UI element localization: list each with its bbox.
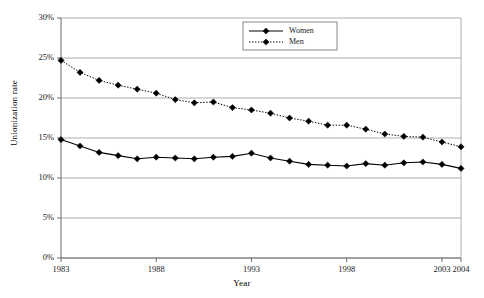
data-point-men — [439, 139, 445, 145]
series-line-men — [61, 60, 461, 146]
data-point-women — [77, 143, 83, 149]
y-tick-label: 25% — [26, 52, 54, 62]
unionization-rate-line-chart: Unionization rate Year 0%5%10%15%20%25%3… — [0, 0, 484, 298]
data-point-men — [210, 99, 216, 105]
data-point-men — [420, 134, 426, 140]
data-point-women — [96, 149, 102, 155]
data-point-women — [458, 165, 464, 171]
data-point-men — [77, 69, 83, 75]
data-point-men — [229, 105, 235, 111]
data-series-layer — [58, 57, 464, 171]
x-tick-label: 1993 — [231, 264, 271, 274]
data-point-men — [344, 122, 350, 128]
data-point-men — [401, 133, 407, 139]
data-point-men — [286, 115, 292, 121]
data-point-women — [229, 153, 235, 159]
x-tick-label: 1988 — [136, 264, 176, 274]
data-point-men — [153, 90, 159, 96]
data-point-women — [286, 158, 292, 164]
plot-area — [0, 0, 484, 298]
y-tick-label: 30% — [26, 12, 54, 22]
y-tick-label: 15% — [26, 132, 54, 142]
legend-entry-men: Men — [289, 37, 304, 46]
data-point-women — [58, 137, 64, 143]
data-point-men — [172, 97, 178, 103]
data-point-men — [191, 100, 197, 106]
data-point-men — [96, 77, 102, 83]
y-tick-label: 5% — [26, 212, 54, 222]
legend-entry-women: Women — [289, 26, 314, 35]
y-tick-label: 10% — [26, 172, 54, 182]
data-point-women — [439, 161, 445, 167]
data-point-men — [325, 122, 331, 128]
data-point-women — [115, 153, 121, 159]
data-point-men — [306, 118, 312, 124]
data-point-women — [420, 159, 426, 165]
data-point-men — [382, 131, 388, 137]
gridlines — [61, 18, 461, 258]
x-tick-label: 1998 — [327, 264, 367, 274]
data-point-women — [267, 155, 273, 161]
x-tick-label: 1983 — [41, 264, 81, 274]
x-axis-title: Year — [0, 278, 484, 288]
data-point-women — [153, 154, 159, 160]
data-point-men — [363, 126, 369, 132]
data-point-women — [306, 161, 312, 167]
data-point-men — [115, 82, 121, 88]
data-point-women — [191, 156, 197, 162]
data-point-women — [134, 156, 140, 162]
data-point-men — [134, 86, 140, 92]
data-point-women — [401, 160, 407, 166]
x-tick-label: 2004 — [441, 264, 481, 274]
y-tick-label: 20% — [26, 92, 54, 102]
series-line-women — [61, 140, 461, 169]
data-point-women — [382, 162, 388, 168]
data-point-women — [248, 150, 254, 156]
data-point-men — [458, 144, 464, 150]
axis-tick-marks — [57, 18, 461, 262]
data-point-women — [344, 163, 350, 169]
y-tick-label: 0% — [26, 252, 54, 262]
data-point-women — [325, 162, 331, 168]
data-point-women — [172, 155, 178, 161]
data-point-men — [267, 110, 273, 116]
y-axis-title: Unionization rate — [9, 53, 19, 173]
data-point-men — [248, 107, 254, 113]
data-point-women — [363, 161, 369, 167]
data-point-women — [210, 154, 216, 160]
